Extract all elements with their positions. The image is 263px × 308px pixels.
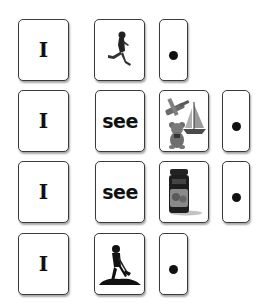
period-card[interactable] — [222, 161, 250, 223]
word-card-i[interactable]: I — [18, 19, 69, 81]
word-card-i[interactable]: I — [18, 233, 69, 295]
word-label: I — [39, 180, 48, 204]
period-dot-icon — [232, 193, 241, 202]
word-card-i[interactable]: I — [18, 161, 69, 223]
toys-icon — [161, 92, 207, 150]
period-dot-icon — [169, 51, 178, 60]
word-card-i[interactable]: I — [18, 90, 69, 152]
picture-card-jam[interactable] — [159, 161, 209, 223]
picture-card-dig[interactable] — [94, 233, 145, 295]
word-card-see[interactable]: see — [95, 161, 145, 223]
word-label: see — [102, 110, 138, 132]
picture-card-toys[interactable] — [159, 90, 209, 152]
period-dot-icon — [169, 265, 178, 274]
period-card[interactable] — [159, 19, 188, 81]
word-card-see[interactable]: see — [95, 90, 145, 152]
period-card[interactable] — [159, 233, 188, 295]
running-child-icon — [105, 29, 135, 71]
word-label: see — [102, 181, 138, 203]
word-label: I — [39, 109, 48, 133]
digging-person-icon — [97, 241, 143, 287]
period-card[interactable] — [222, 90, 250, 152]
word-label: I — [39, 252, 48, 276]
picture-card-run[interactable] — [94, 19, 145, 81]
jam-jar-icon — [162, 165, 206, 219]
period-dot-icon — [232, 122, 241, 131]
word-label: I — [39, 38, 48, 62]
